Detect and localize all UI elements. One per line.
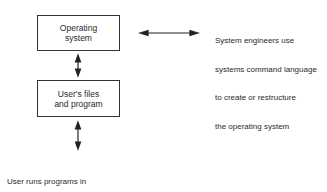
os-userfiles-arrow-icon <box>76 55 81 76</box>
os-engineers-arrow-icon <box>140 31 198 36</box>
annotation-line: systems command language <box>215 65 317 75</box>
user-annotation: User runs programs in “ordinary” program… <box>7 158 130 192</box>
annotation-line: the operating system <box>215 122 317 132</box>
annotation-line: System engineers use <box>215 36 317 46</box>
system-engineers-annotation: System engineers use systems command lan… <box>215 17 317 141</box>
userfiles-user-arrow-icon <box>76 122 81 149</box>
annotation-line: User runs programs in <box>7 177 130 187</box>
annotation-line: to create or restructure <box>215 93 317 103</box>
